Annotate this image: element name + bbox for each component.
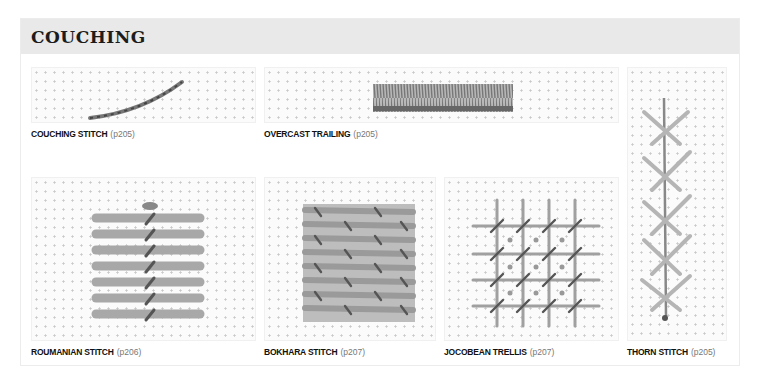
stitch-sample-image	[31, 67, 256, 123]
stitch-page-ref: (p205)	[353, 129, 378, 139]
stitch-caption: ROUMANIAN STITCH(p206)	[31, 347, 141, 357]
section-header: COUCHING	[21, 19, 739, 54]
stitch-panel-thorn: THORN STITCH(p205)	[627, 67, 731, 357]
stitch-sample-image	[264, 67, 619, 123]
stitch-page-ref: (p207)	[530, 347, 555, 357]
stitch-panel-bokhara: BOKHARA STITCH(p207)	[264, 177, 436, 357]
thorn-stitch-illustration	[628, 68, 727, 341]
stitch-panel-overcast-trailing: OVERCAST TRAILING(p205)	[264, 67, 619, 139]
bokhara-stitch-illustration	[265, 178, 436, 341]
stitch-panel-jocobean-trellis: JOCOBEAN TRELLIS(p207)	[444, 177, 619, 357]
stitch-caption: OVERCAST TRAILING(p205)	[264, 129, 378, 139]
couching-section: COUCHING COUCHING STITCH(p205)	[20, 18, 740, 366]
stitch-caption: JOCOBEAN TRELLIS(p207)	[444, 347, 554, 357]
stitch-sample-image	[264, 177, 436, 341]
stitch-page-ref: (p205)	[691, 347, 716, 357]
stitch-panel-roumanian: ROUMANIAN STITCH(p206)	[31, 177, 256, 357]
roumanian-stitch-illustration	[32, 178, 256, 341]
stitch-page-ref: (p206)	[117, 347, 142, 357]
overcast-trailing-illustration	[265, 68, 619, 123]
stitch-panel-couching: COUCHING STITCH(p205)	[31, 67, 256, 139]
stitch-page-ref: (p205)	[110, 129, 135, 139]
stitch-caption: BOKHARA STITCH(p207)	[264, 347, 365, 357]
stitch-name: ROUMANIAN STITCH	[31, 347, 114, 357]
stitch-name: COUCHING STITCH	[31, 129, 107, 139]
stitch-name: THORN STITCH	[627, 347, 688, 357]
jocobean-trellis-illustration	[445, 178, 619, 341]
stitch-sample-image	[444, 177, 619, 341]
section-title: COUCHING	[31, 27, 146, 47]
stitch-sample-image	[31, 177, 256, 341]
stitch-name: JOCOBEAN TRELLIS	[444, 347, 527, 357]
stitch-page-ref: (p207)	[340, 347, 365, 357]
stitch-sample-image	[627, 67, 727, 341]
couching-stitch-illustration	[32, 68, 256, 123]
stitch-name: OVERCAST TRAILING	[264, 129, 350, 139]
stitch-caption: COUCHING STITCH(p205)	[31, 129, 135, 139]
stitch-name: BOKHARA STITCH	[264, 347, 337, 357]
stitch-caption: THORN STITCH(p205)	[627, 347, 715, 357]
